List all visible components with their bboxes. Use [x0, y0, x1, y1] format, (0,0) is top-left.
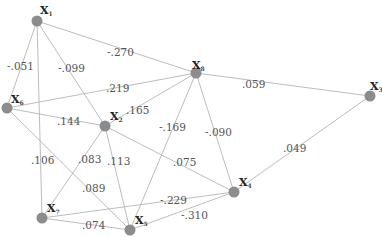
network-graph: -.051.106-.099-.270.219.144.089.165.083.… — [0, 0, 382, 237]
edge-weight-label: .106 — [31, 154, 55, 166]
edge-x6-x8 — [7, 73, 196, 108]
edge-weight-label: .059 — [242, 78, 265, 90]
edge-weight-label: .219 — [106, 82, 129, 94]
edge-weight-label: -.099 — [58, 62, 85, 74]
edge-x6-x2 — [7, 108, 105, 126]
edge-weight-label: -.090 — [205, 126, 232, 138]
edge-weight-label: -.169 — [159, 121, 186, 133]
edge-x1-x7 — [37, 21, 42, 218]
edge-weight-label: .113 — [107, 155, 130, 167]
edge-x8-x3 — [196, 73, 370, 96]
node-label-x5: X5 — [135, 214, 148, 227]
edge-weight-label: .144 — [57, 115, 81, 127]
edge-weight-label: .089 — [82, 182, 105, 194]
edge-x8-x5 — [130, 73, 196, 230]
edge-x2-x5 — [105, 126, 130, 230]
edge-weight-label: .049 — [283, 142, 306, 154]
edge-weight-label: -.229 — [160, 194, 187, 206]
node-x1 — [32, 16, 43, 27]
node-label-x7: X7 — [47, 202, 60, 215]
edge-weight-label: -.310 — [181, 209, 208, 221]
node-x2 — [100, 121, 111, 132]
node-label-x3: X3 — [370, 80, 382, 93]
node-x5 — [125, 225, 136, 236]
edge-weight-label: -.270 — [107, 46, 134, 58]
node-label-x1: X1 — [40, 4, 53, 17]
edge-weight-label: .075 — [173, 156, 196, 168]
node-label-x6: X6 — [11, 93, 24, 106]
edge-weight-label: .074 — [82, 219, 106, 231]
node-label-x4: X4 — [239, 176, 252, 189]
node-x4 — [229, 187, 240, 198]
node-label-x2: X2 — [110, 110, 123, 123]
edge-weight-label: .083 — [78, 153, 101, 165]
node-x7 — [37, 213, 48, 224]
edge-weight-label: .165 — [126, 104, 149, 116]
edge-weight-label: -.051 — [7, 60, 34, 72]
node-label-x8: X8 — [192, 59, 205, 72]
